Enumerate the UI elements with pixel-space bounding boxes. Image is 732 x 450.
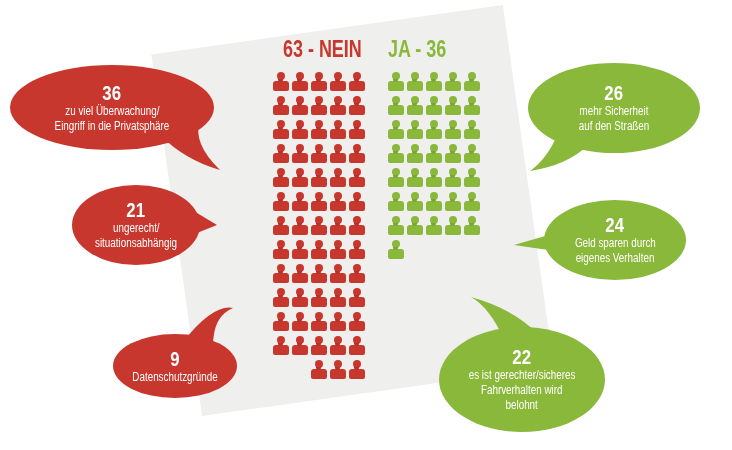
person-icon — [290, 216, 309, 235]
reason-bubble-belohnt: 22 es ist gerechter/sicheres Fahrverhalt… — [439, 327, 605, 432]
person-icon — [328, 264, 347, 283]
reason-label-line: es ist gerechter/sicheres — [469, 368, 576, 383]
reason-bubble-sicherheit: 26 mehr Sicherheit auf den Straßen — [528, 63, 700, 153]
person-icon — [462, 216, 481, 235]
person-icon — [443, 216, 462, 235]
person-icon — [328, 168, 347, 187]
person-icon — [328, 336, 347, 355]
reason-label-line: situationsabhängig — [95, 236, 177, 251]
person-icon — [271, 168, 290, 187]
person-icon — [290, 168, 309, 187]
reason-bubble-ungerecht: 21 ungerecht/ situationsabhängig — [72, 185, 200, 265]
grid-spacer — [271, 360, 290, 379]
person-icon — [328, 144, 347, 163]
person-icon — [271, 312, 290, 331]
person-icon — [271, 120, 290, 139]
person-icon — [309, 240, 328, 259]
person-icon — [309, 144, 328, 163]
grid-spacer — [290, 360, 309, 379]
person-icon — [290, 120, 309, 139]
person-icon — [309, 192, 328, 211]
person-icon — [328, 192, 347, 211]
ja-title: JA - 36 — [388, 36, 446, 63]
nein-people-grid — [271, 72, 366, 379]
person-icon — [309, 360, 328, 379]
person-icon — [347, 192, 366, 211]
person-icon — [405, 216, 424, 235]
reason-bubble-ueberwachung: 36 zu viel Überwachung/ Eingriff in die … — [10, 65, 214, 150]
reason-label-line: belohnt — [506, 398, 538, 413]
person-icon — [347, 336, 366, 355]
person-icon — [443, 168, 462, 187]
person-icon — [424, 216, 443, 235]
person-icon — [386, 120, 405, 139]
person-icon — [462, 120, 481, 139]
reason-label-line: Datenschutzgründe — [132, 370, 217, 385]
person-icon — [328, 288, 347, 307]
person-icon — [347, 216, 366, 235]
person-icon — [309, 336, 328, 355]
person-icon — [290, 312, 309, 331]
reason-count: 24 — [606, 214, 625, 236]
person-icon — [443, 144, 462, 163]
person-icon — [347, 168, 366, 187]
person-icon — [347, 264, 366, 283]
person-icon — [405, 72, 424, 91]
reason-count: 22 — [513, 346, 532, 368]
person-icon — [424, 96, 443, 115]
person-icon — [290, 72, 309, 91]
person-icon — [347, 240, 366, 259]
person-icon — [271, 216, 290, 235]
person-icon — [290, 240, 309, 259]
person-icon — [462, 96, 481, 115]
person-icon — [424, 192, 443, 211]
person-icon — [405, 96, 424, 115]
person-icon — [328, 240, 347, 259]
person-icon — [443, 120, 462, 139]
person-icon — [290, 96, 309, 115]
reason-bubble-datenschutz: 9 Datenschutzgründe — [113, 334, 237, 398]
person-icon — [424, 120, 443, 139]
person-icon — [347, 96, 366, 115]
reason-count: 26 — [605, 82, 624, 104]
person-icon — [424, 72, 443, 91]
person-icon — [386, 168, 405, 187]
person-icon — [328, 216, 347, 235]
person-icon — [347, 312, 366, 331]
reason-count: 9 — [170, 348, 179, 370]
person-icon — [290, 144, 309, 163]
reason-label-line: Geld sparen durch — [575, 236, 656, 251]
person-icon — [386, 240, 405, 259]
person-icon — [271, 72, 290, 91]
person-icon — [309, 120, 328, 139]
reason-label-line: zu viel Überwachung/ — [65, 104, 159, 119]
person-icon — [443, 192, 462, 211]
person-icon — [271, 96, 290, 115]
person-icon — [309, 288, 328, 307]
reason-label-line: Eingriff in die Privatsphäre — [55, 119, 170, 134]
reason-label-line: eigenes Verhalten — [576, 251, 655, 266]
reason-label-line: Fahrverhalten wird — [481, 383, 562, 398]
person-icon — [347, 120, 366, 139]
person-icon — [290, 264, 309, 283]
person-icon — [271, 264, 290, 283]
person-icon — [328, 96, 347, 115]
nein-title: 63 - NEIN — [283, 36, 362, 63]
person-icon — [405, 120, 424, 139]
reason-label-line: auf den Straßen — [579, 119, 650, 134]
reason-count: 21 — [127, 199, 146, 221]
person-icon — [405, 168, 424, 187]
person-icon — [462, 192, 481, 211]
person-icon — [309, 264, 328, 283]
person-icon — [347, 360, 366, 379]
person-icon — [328, 120, 347, 139]
person-icon — [424, 144, 443, 163]
person-icon — [386, 192, 405, 211]
person-icon — [443, 96, 462, 115]
person-icon — [309, 168, 328, 187]
reason-label-line: ungerecht/ — [113, 221, 160, 236]
person-icon — [347, 288, 366, 307]
person-icon — [271, 144, 290, 163]
person-icon — [386, 144, 405, 163]
person-icon — [328, 360, 347, 379]
